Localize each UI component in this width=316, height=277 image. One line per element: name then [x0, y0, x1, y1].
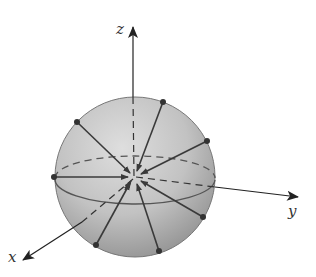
surface-point — [51, 174, 57, 180]
x-axis-label: x — [8, 250, 16, 265]
x-axis-outer — [23, 222, 82, 260]
y-axis-outer — [215, 187, 298, 197]
sphere-diagram: z y x — [0, 0, 316, 277]
surface-point — [156, 248, 162, 254]
surface-point — [204, 138, 210, 144]
surface-point — [93, 242, 99, 248]
diagram-canvas — [0, 0, 316, 277]
y-axis-label: y — [288, 204, 296, 219]
surface-point — [160, 99, 166, 105]
surface-point — [200, 214, 206, 220]
z-axis-label: z — [116, 22, 124, 37]
surface-point — [74, 119, 80, 125]
